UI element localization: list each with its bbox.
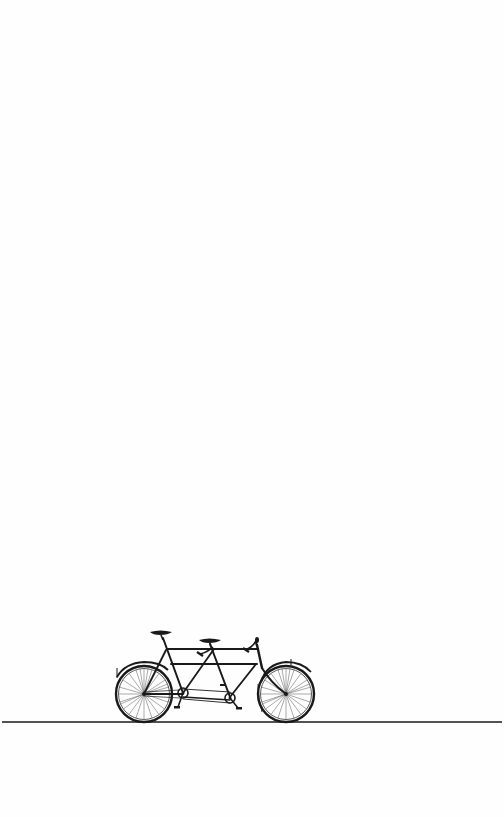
rear-saddle [150, 631, 172, 641]
tandem-bicycle-illustration [0, 0, 504, 817]
front-wheel [258, 659, 314, 722]
bicycle-frame [144, 638, 286, 703]
page [0, 0, 504, 817]
front-saddle [199, 639, 221, 648]
